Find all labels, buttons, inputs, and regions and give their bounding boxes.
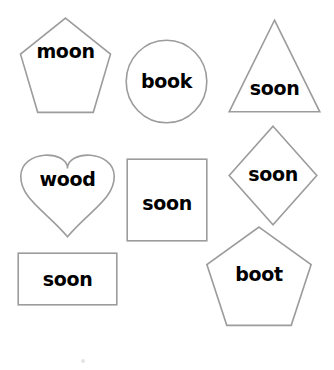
- square-outline-icon: [126, 158, 208, 242]
- stray-mark: [81, 359, 85, 363]
- shape-circle-book[interactable]: book: [125, 39, 208, 124]
- shape-pentagon-moon[interactable]: moon: [17, 20, 114, 113]
- pentagon-outline-icon: [203, 229, 315, 326]
- heart-outline-icon: [15, 144, 120, 238]
- shape-pentagon-boot[interactable]: boot: [203, 229, 315, 326]
- shape-square-soon[interactable]: soon: [126, 158, 208, 242]
- shape-triangle-soon[interactable]: soon: [228, 19, 321, 113]
- rectangle-outline-icon: [17, 252, 118, 306]
- diamond-outline-icon: [228, 125, 318, 226]
- shape-diamond-soon[interactable]: soon: [228, 125, 318, 226]
- pentagon-outline-icon: [17, 20, 114, 113]
- shape-rectangle-soon[interactable]: soon: [17, 252, 118, 306]
- triangle-outline-icon: [228, 19, 321, 113]
- circle-outline-icon: [125, 39, 208, 124]
- shape-heart-wood[interactable]: wood: [15, 144, 120, 238]
- worksheet-canvas: moonbooksoonwoodsoonsoonsoonboot: [0, 0, 334, 370]
